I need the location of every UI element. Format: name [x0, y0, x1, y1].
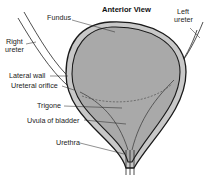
right-ureter-outer	[24, 12, 72, 80]
label-uvula: Uvula of bladder	[27, 117, 79, 125]
label-urethra: Urethra	[56, 139, 80, 147]
label-right-ureter-2: ureter	[5, 46, 24, 54]
label-lateral-wall: Lateral wall	[9, 72, 45, 80]
diagram-title: Anterior View	[102, 6, 151, 14]
bladder-lumen	[72, 27, 180, 162]
label-left-ureter-2: ureter	[174, 16, 193, 24]
label-ureteral-orifice: Ureteral orifice	[11, 82, 58, 90]
label-fundus: Fundus	[47, 14, 71, 22]
label-trigone: Trigone	[37, 102, 61, 110]
leader-right-ureter	[26, 42, 36, 44]
